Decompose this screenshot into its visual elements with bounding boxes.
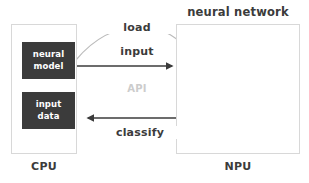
- input-edge-label: input: [100, 45, 174, 58]
- neural-model-block: neural model: [22, 42, 75, 79]
- input-data-label-line2: data: [37, 111, 59, 123]
- neural-model-label-line1: neural: [33, 49, 64, 61]
- input-data-block: input data: [22, 92, 75, 129]
- neural-model-label-line2: model: [34, 61, 64, 73]
- cpu-caption: CPU: [11, 160, 77, 173]
- diagram-canvas: neural model input data CPU neural netwo…: [0, 0, 309, 183]
- npu-caption: NPU: [176, 160, 300, 173]
- api-edge-label: API: [104, 83, 170, 94]
- input-data-label-line1: input: [36, 99, 62, 111]
- load-edge-label: load: [104, 21, 170, 34]
- neural-network-title: neural network: [176, 5, 300, 19]
- classify-edge-label: classify: [98, 126, 182, 139]
- npu-panel: [176, 24, 300, 154]
